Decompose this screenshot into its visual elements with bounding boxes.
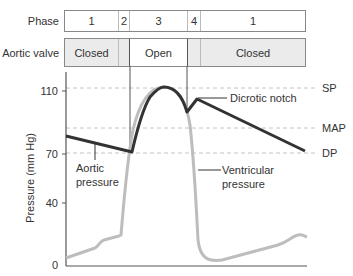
tick-70: 70 [46, 148, 58, 160]
y-axis-label: Pressure (mm Hg) [24, 133, 36, 223]
sp-label: SP [322, 82, 337, 94]
map-label: MAP [322, 122, 346, 134]
tick-110: 110 [40, 85, 58, 97]
pressure-chart: 110 70 40 0 Pressure (mm Hg) SP MAP DP D… [0, 0, 353, 276]
ventricular-label-line2: pressure [222, 178, 265, 190]
dicrotic-notch-label: Dicrotic notch [230, 92, 297, 104]
ventricular-label-line1: Ventricular [222, 164, 274, 176]
aortic-label-line2: pressure [76, 176, 119, 188]
dp-label: DP [322, 147, 337, 159]
tick-0: 0 [52, 259, 58, 271]
aortic-label-line1: Aortic [76, 162, 105, 174]
tick-40: 40 [46, 197, 58, 209]
